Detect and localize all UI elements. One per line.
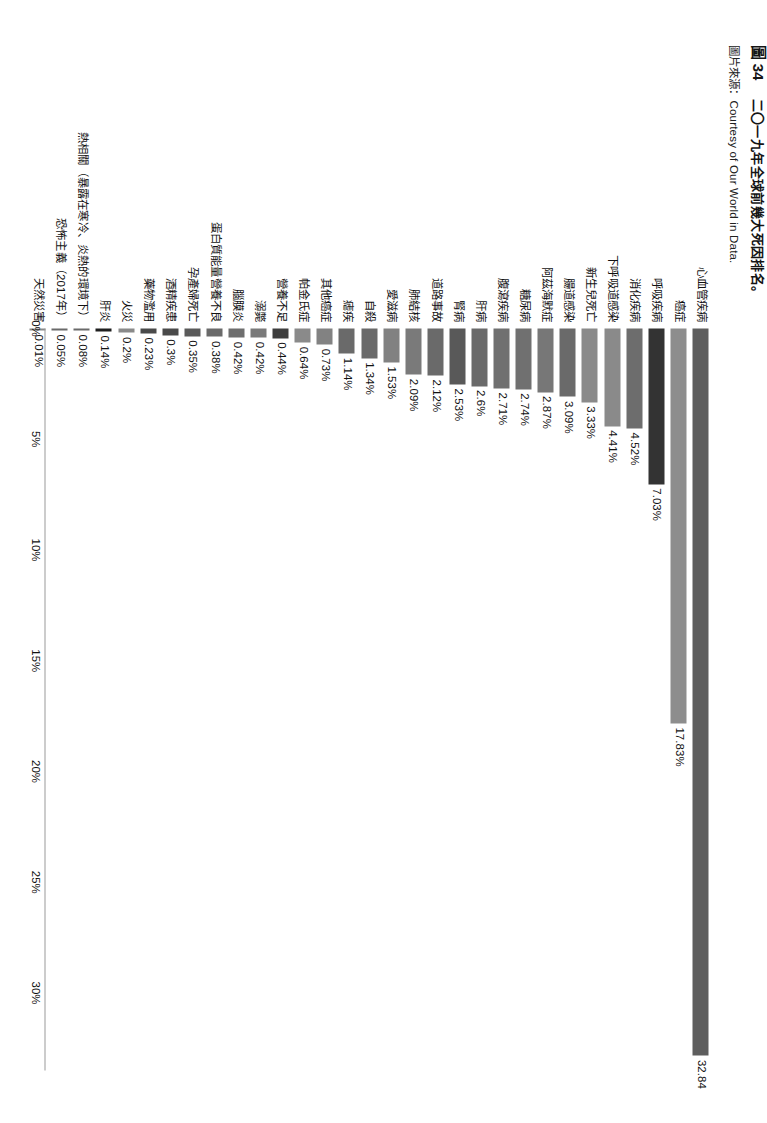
bar-row: 下呼吸道感染4.41% bbox=[601, 328, 623, 1070]
bar-segment bbox=[581, 328, 597, 402]
bar-row: 肝炎0.14% bbox=[92, 328, 114, 1070]
bar-value-label: 2.6% bbox=[473, 390, 484, 416]
bar-row: 肝病2.6% bbox=[468, 328, 490, 1070]
bar-segment bbox=[515, 328, 531, 389]
bar-category-label: 天然災害 bbox=[31, 277, 42, 322]
bar-category-label: 肺結核 bbox=[407, 288, 418, 322]
bar-value-label: 0.38% bbox=[208, 340, 219, 373]
bar-row: 營養不足0.44% bbox=[269, 328, 291, 1070]
x-axis: 0%5%10%15%20%25%30% bbox=[11, 328, 45, 1070]
bar-value-label: 4.52% bbox=[628, 432, 639, 465]
bar-segment bbox=[73, 328, 89, 330]
bar-segment bbox=[471, 328, 487, 386]
bar-rows: 心血管疾病32.84癌症17.83%呼吸疾病7.03%消化疾病4.52%下呼吸道… bbox=[45, 328, 711, 1070]
bar-segment bbox=[626, 328, 642, 428]
bar-value-label: 17.83% bbox=[672, 727, 683, 766]
bar-category-label: 肝炎 bbox=[98, 300, 109, 322]
bar-category-label: 帕金氏症 bbox=[297, 277, 308, 322]
bar-segment bbox=[361, 328, 377, 358]
bar-category-label: 下呼吸道感染 bbox=[606, 255, 617, 322]
bar-value-label: 0.42% bbox=[252, 341, 263, 374]
plot-area: 心血管疾病32.84癌症17.83%呼吸疾病7.03%消化疾病4.52%下呼吸道… bbox=[45, 328, 711, 1070]
bar-segment bbox=[405, 328, 421, 374]
bar-segment bbox=[294, 328, 310, 342]
bar-value-label: 0.08% bbox=[76, 334, 87, 367]
bar-row: 火災0.2% bbox=[114, 328, 136, 1070]
bar-segment bbox=[648, 328, 664, 484]
bar-value-label: 2.53% bbox=[451, 388, 462, 421]
bar-segment bbox=[206, 328, 222, 336]
figure-caption: 圖 34 二〇一九年全球前幾大死因排名。 圖片來源：Courtesy of Ou… bbox=[724, 0, 767, 1123]
bar-category-label: 恐怖主義（2017年） bbox=[54, 217, 65, 322]
bar-segment bbox=[228, 328, 244, 337]
bar-value-label: 2.87% bbox=[540, 396, 551, 429]
bar-value-label: 2.71% bbox=[495, 392, 506, 425]
bar-category-label: 腎病 bbox=[451, 300, 462, 322]
bar-chart: 心血管疾病32.84癌症17.83%呼吸疾病7.03%消化疾病4.52%下呼吸道… bbox=[11, 118, 711, 1078]
bar-row: 新生兒死亡3.33% bbox=[578, 328, 600, 1070]
bar-row: 愛滋病1.53% bbox=[380, 328, 402, 1070]
bar-row: 癌症17.83% bbox=[667, 328, 689, 1070]
bar-segment bbox=[184, 328, 200, 336]
bar-category-label: 熱相關（暴露在寒冷、炎熱的環境下） bbox=[76, 132, 87, 322]
bar-segment bbox=[51, 328, 67, 330]
bar-value-label: 3.33% bbox=[584, 406, 595, 439]
bar-category-label: 新生兒死亡 bbox=[584, 266, 595, 322]
bar-category-label: 火災 bbox=[120, 300, 131, 322]
bar-row: 其他癌症0.73% bbox=[313, 328, 335, 1070]
bar-category-label: 肝病 bbox=[473, 300, 484, 322]
bar-value-label: 2.74% bbox=[518, 393, 529, 426]
bar-category-label: 呼吸疾病 bbox=[650, 277, 661, 322]
bar-row: 糖尿病2.74% bbox=[512, 328, 534, 1070]
axis-tick-label: 5% bbox=[29, 431, 41, 447]
bar-value-label: 4.41% bbox=[606, 430, 617, 463]
axis-tick-label: 0% bbox=[29, 320, 41, 336]
figure-number: 圖 34 bbox=[749, 44, 766, 80]
bar-row: 腸道感染3.09% bbox=[556, 328, 578, 1070]
bar-category-label: 孕產婦死亡 bbox=[186, 266, 197, 322]
bar-value-label: 2.09% bbox=[407, 378, 418, 411]
bar-value-label: 0.42% bbox=[230, 341, 241, 374]
bar-segment bbox=[316, 328, 332, 344]
bar-segment bbox=[493, 328, 509, 388]
bar-row: 熱相關（暴露在寒冷、炎熱的環境下）0.08% bbox=[70, 328, 92, 1070]
bar-category-label: 消化疾病 bbox=[628, 277, 639, 322]
bar-segment bbox=[250, 328, 266, 337]
bar-segment bbox=[338, 328, 354, 353]
bar-row: 孕產婦死亡0.35% bbox=[181, 328, 203, 1070]
bar-category-label: 其他癌症 bbox=[319, 277, 330, 322]
bar-category-label: 自殺 bbox=[363, 300, 374, 322]
bar-row: 瘧疾1.14% bbox=[335, 328, 357, 1070]
axis-tick-label: 25% bbox=[29, 870, 41, 893]
bar-segment bbox=[692, 328, 708, 1055]
bar-category-label: 蛋白質能量營養不良 bbox=[208, 221, 219, 322]
bar-row: 腦膜炎0.42% bbox=[225, 328, 247, 1070]
bar-value-label: 7.03% bbox=[650, 488, 661, 521]
axis-tick-label: 10% bbox=[29, 538, 41, 561]
bar-segment bbox=[449, 328, 465, 384]
bar-value-label: 1.14% bbox=[341, 357, 352, 390]
bar-value-label: 0.64% bbox=[297, 346, 308, 379]
axis-line bbox=[44, 328, 45, 1070]
bar-row: 蛋白質能量營養不良0.38% bbox=[203, 328, 225, 1070]
bar-category-label: 糖尿病 bbox=[518, 288, 529, 322]
bar-row: 呼吸疾病7.03% bbox=[645, 328, 667, 1070]
bar-segment bbox=[272, 328, 288, 338]
bar-category-label: 腹瀉疾病 bbox=[495, 277, 506, 322]
bar-category-label: 腦膜炎 bbox=[230, 288, 241, 322]
bar-value-label: 0.23% bbox=[142, 337, 153, 370]
figure-title-line: 圖 34 二〇一九年全球前幾大死因排名。 bbox=[747, 44, 767, 1123]
bar-segment bbox=[140, 328, 156, 333]
bar-value-label: 0.3% bbox=[164, 339, 175, 365]
bar-row: 消化疾病4.52% bbox=[623, 328, 645, 1070]
bar-category-label: 癌症 bbox=[672, 300, 683, 322]
bar-category-label: 瘧疾 bbox=[341, 300, 352, 322]
bar-segment bbox=[559, 328, 575, 396]
bar-row: 溺斃0.42% bbox=[247, 328, 269, 1070]
bar-row: 心血管疾病32.84 bbox=[689, 328, 711, 1070]
bar-value-label: 0.73% bbox=[319, 348, 330, 381]
bar-row: 腹瀉疾病2.71% bbox=[490, 328, 512, 1070]
bar-category-label: 道路事故 bbox=[429, 277, 440, 322]
bar-category-label: 心血管疾病 bbox=[694, 266, 705, 322]
bar-value-label: 3.09% bbox=[562, 400, 573, 433]
